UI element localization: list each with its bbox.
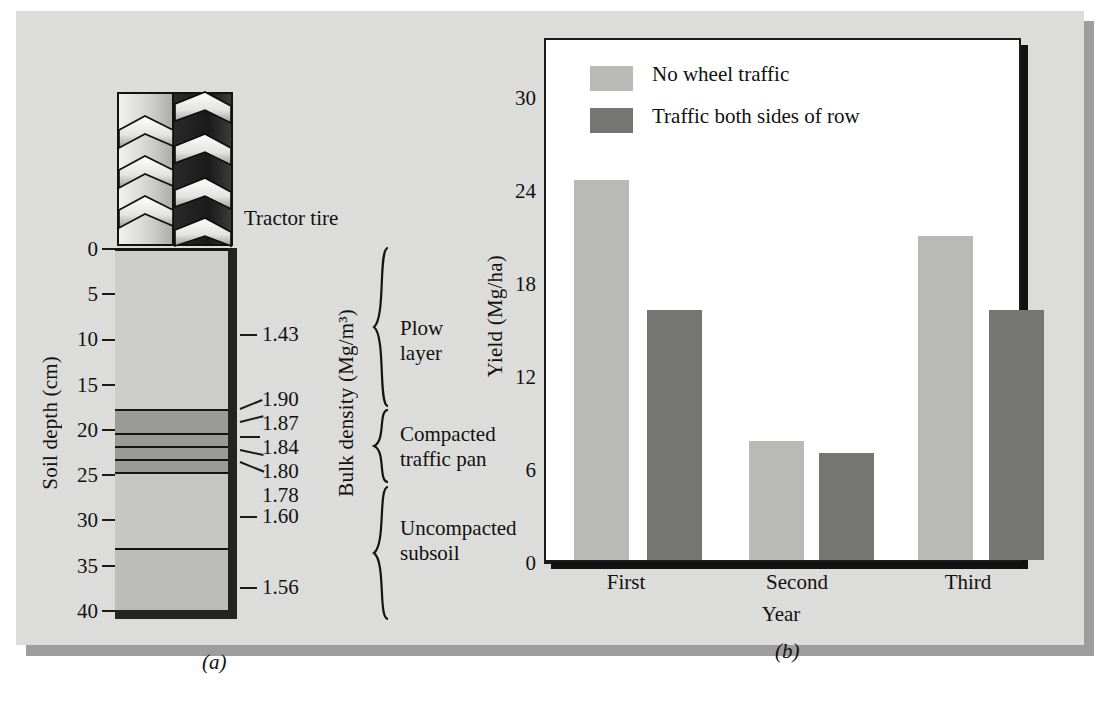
xtick-label-third: Third xyxy=(913,570,1023,595)
year-axis-title: Year xyxy=(726,602,836,627)
xtick-label-second: Second xyxy=(742,570,852,595)
figure-container: Tractor tire Soil depth (cm) 0 5 10 15 2… xyxy=(0,0,1102,718)
ytick-label-30: 30 xyxy=(494,86,536,111)
panel-b-letter: (b) xyxy=(775,639,800,664)
bar-second-traffic[interactable] xyxy=(819,453,874,560)
ytick-label-12: 12 xyxy=(494,365,536,390)
xtick-label-first: First xyxy=(571,570,681,595)
ytick-label-18: 18 xyxy=(494,272,536,297)
legend-label-no-wheel-traffic: No wheel traffic xyxy=(652,62,789,87)
ytick-label-6: 6 xyxy=(494,458,536,483)
panel-b-yield-chart: Yield (Mg/ha) 0 6 12 18 24 30 xyxy=(0,0,1102,718)
ytick-label-24: 24 xyxy=(494,179,536,204)
bar-second-no-traffic[interactable] xyxy=(749,441,804,560)
plot-area: No wheel traffic Traffic both sides of r… xyxy=(544,38,1021,562)
legend-swatch-traffic-both-sides xyxy=(590,108,633,133)
legend-label-traffic-both-sides: Traffic both sides of row xyxy=(652,104,860,129)
ytick-label-0: 0 xyxy=(494,551,536,576)
bar-first-no-traffic[interactable] xyxy=(574,180,629,560)
bar-first-traffic[interactable] xyxy=(647,310,702,560)
bar-third-traffic[interactable] xyxy=(989,310,1044,560)
legend-swatch-no-wheel-traffic xyxy=(590,66,633,91)
bar-third-no-traffic[interactable] xyxy=(918,236,973,560)
